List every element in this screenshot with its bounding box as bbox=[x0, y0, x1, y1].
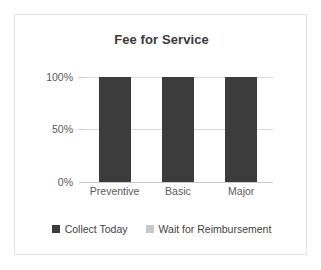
x-axis-label-major: Major bbox=[210, 185, 273, 197]
legend-label-wait-for-reimbursement: Wait for Reimbursement bbox=[159, 223, 272, 235]
x-axis-label-preventive: Preventive bbox=[83, 185, 146, 197]
plot-area: 100% 50% 0% Preventive Basic Major bbox=[83, 77, 273, 182]
y-axis-label-50: 50% bbox=[13, 123, 73, 135]
y-tick-0 bbox=[79, 182, 83, 183]
bar-major[interactable] bbox=[225, 77, 257, 182]
y-axis-label-0: 0% bbox=[13, 176, 73, 188]
axis-baseline bbox=[83, 182, 273, 183]
x-axis-label-basic: Basic bbox=[146, 185, 209, 197]
bar-slot-preventive: Preventive bbox=[83, 77, 146, 182]
legend-swatch-wait-for-reimbursement bbox=[146, 225, 154, 233]
legend-item-collect-today[interactable]: Collect Today bbox=[52, 223, 128, 235]
y-axis-label-100: 100% bbox=[13, 71, 73, 83]
bar-preventive[interactable] bbox=[99, 77, 131, 182]
bar-basic[interactable] bbox=[162, 77, 194, 182]
bar-group: Preventive Basic Major bbox=[83, 77, 273, 182]
legend-swatch-collect-today bbox=[52, 225, 60, 233]
legend-item-wait-for-reimbursement[interactable]: Wait for Reimbursement bbox=[146, 223, 272, 235]
bar-slot-basic: Basic bbox=[146, 77, 209, 182]
bar-slot-major: Major bbox=[210, 77, 273, 182]
chart-container: Fee for Service 100% 50% 0% Preventive B… bbox=[14, 14, 307, 255]
chart-title: Fee for Service bbox=[15, 32, 308, 47]
chart-legend: Collect Today Wait for Reimbursement bbox=[15, 223, 308, 235]
legend-label-collect-today: Collect Today bbox=[65, 223, 128, 235]
